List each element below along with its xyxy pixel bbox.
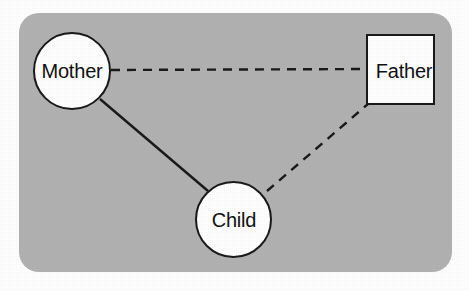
node-father-label: Father [369, 61, 439, 81]
diagram-canvas: Mother Father Child [0, 0, 469, 291]
edge-child-father [267, 104, 368, 191]
edge-mother-child [100, 99, 208, 191]
node-mother-label: Mother [36, 61, 108, 81]
edge-mother-father [111, 69, 366, 70]
node-child-label: Child [196, 210, 272, 230]
